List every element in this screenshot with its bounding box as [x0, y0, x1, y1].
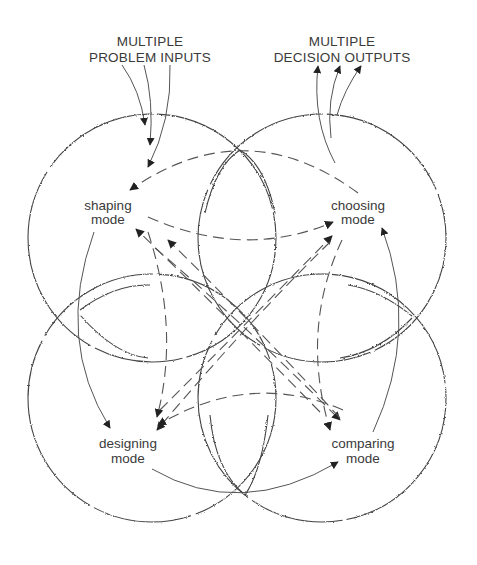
shaping-label-line2: mode — [91, 212, 125, 227]
mode-shaping: shaping mode — [84, 198, 131, 227]
choosing-label-line2: mode — [341, 212, 375, 227]
inputs-heading-line2: PROBLEM INPUTS — [89, 50, 211, 65]
arrow-comparing-to-shaping-2 — [168, 240, 340, 418]
four-mode-decision-diagram: MULTIPLE PROBLEM INPUTS MULTIPLE DECISIO… — [0, 0, 477, 565]
arrow-designing-to-choosing — [160, 236, 332, 410]
inputs-heading-line1: MULTIPLE — [117, 34, 184, 49]
arrow-choosing-to-designing — [157, 242, 330, 430]
mode-comparing: comparing mode — [331, 436, 394, 466]
designing-label-line2: mode — [111, 451, 145, 466]
outputs-heading-line2: DECISION OUTPUTS — [274, 50, 411, 65]
mode-choosing: choosing mode — [331, 198, 385, 227]
comparing-label-line1: comparing — [331, 436, 394, 451]
designing-label-line1: designing — [99, 436, 157, 451]
arrow-shaping-to-choosing — [148, 217, 333, 240]
mode-circles — [28, 114, 446, 522]
shaping-label-line1: shaping — [84, 198, 131, 213]
decision-output-arrows — [317, 66, 361, 163]
arrow-comparing-to-choosing — [373, 228, 399, 432]
output-arrow — [330, 66, 340, 138]
mode-designing: designing mode — [99, 436, 157, 466]
choosing-circle — [198, 114, 446, 362]
dashed-interconnection-arrows — [130, 151, 358, 430]
input-arrow — [122, 65, 145, 125]
arrow-shaping-to-designing-dashed — [148, 232, 167, 417]
arrow-choosing-to-shaping — [130, 151, 358, 193]
input-arrow — [144, 65, 151, 145]
arrow-comparing-to-designing — [158, 393, 343, 425]
outputs-heading-line1: MULTIPLE — [309, 34, 376, 49]
arrow-designing-to-comparing — [152, 462, 338, 493]
choosing-label-line1: choosing — [331, 198, 385, 213]
output-arrow — [337, 66, 361, 115]
comparing-label-line2: mode — [346, 451, 380, 466]
